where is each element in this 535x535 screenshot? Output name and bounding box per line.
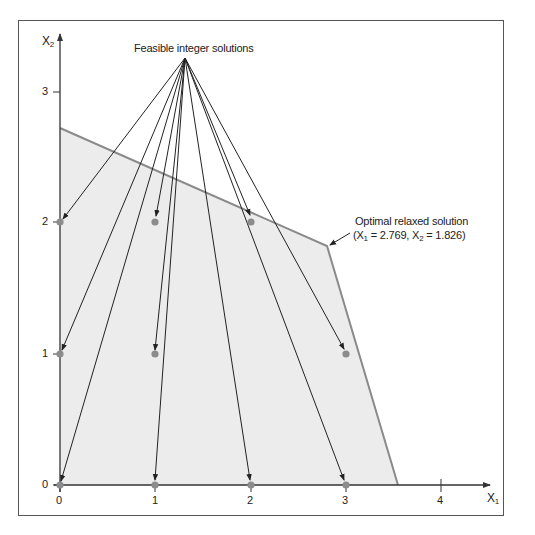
y-tick-0: 0 xyxy=(42,478,48,490)
x-tick-1: 1 xyxy=(152,494,158,506)
x-tick-2: 2 xyxy=(247,494,253,506)
y-tick-3: 3 xyxy=(42,85,48,97)
x-tick-3: 3 xyxy=(342,494,348,506)
x-tick-4: 4 xyxy=(437,494,443,506)
x-axis-title: X1 xyxy=(487,491,499,506)
x-tick-0: 0 xyxy=(56,494,62,506)
y-tick-2: 2 xyxy=(42,215,48,227)
feasible-region xyxy=(60,128,398,485)
optimal-label-line2: (X1 = 2.769, X2 = 1.826) xyxy=(353,229,465,243)
feasible-integer-label: Feasible integer solutions xyxy=(134,42,254,54)
y-axis-title: X2 xyxy=(42,34,54,49)
lp-diagram xyxy=(0,0,535,535)
optimal-label-line1: Optimal relaxed solution xyxy=(355,215,468,227)
y-tick-1: 1 xyxy=(42,347,48,359)
optimal-arrow xyxy=(330,233,350,245)
